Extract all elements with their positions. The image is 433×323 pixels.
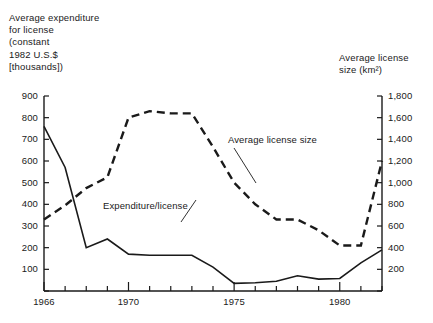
right-tick-label: 200 [388, 264, 432, 274]
left-tick-label: 200 [2, 243, 38, 253]
left-tick-label: 500 [2, 178, 38, 188]
leader-line-license-size [234, 148, 256, 183]
right-tick-label: 1,800 [388, 91, 432, 101]
right-tick-label: 1,200 [388, 156, 432, 166]
right-tick-label: 800 [388, 199, 432, 209]
left-tick-label: 600 [2, 156, 38, 166]
right-tick-label: 400 [388, 243, 432, 253]
right-tick-label: 1,000 [388, 178, 432, 188]
left-tick-label: 800 [2, 113, 38, 123]
left-tick-label: 100 [2, 264, 38, 274]
chart-figure: Average expenditure for license (constan… [0, 0, 433, 323]
right-axis-ticks [377, 96, 382, 291]
leader-line-expenditure [181, 200, 196, 222]
x-tick-label: 1966 [24, 297, 64, 307]
series-line-expenditure-per-license [44, 126, 382, 283]
annotation-leader-lines [181, 148, 256, 222]
left-axis-ticks [44, 96, 49, 291]
x-axis-ticks [44, 282, 382, 291]
x-tick-label: 1970 [109, 297, 149, 307]
series-lines [44, 111, 382, 283]
left-tick-label: 400 [2, 199, 38, 209]
left-tick-label: 900 [2, 91, 38, 101]
x-tick-label: 1975 [214, 297, 254, 307]
left-tick-label: 700 [2, 134, 38, 144]
axis-frame [44, 96, 382, 291]
right-tick-label: 600 [388, 221, 432, 231]
right-tick-label: 1,600 [388, 113, 432, 123]
x-tick-label: 1980 [320, 297, 360, 307]
plot-area [0, 0, 433, 323]
left-tick-label: 300 [2, 221, 38, 231]
series-line-average-license-size [44, 111, 382, 245]
right-tick-label: 1,400 [388, 134, 432, 144]
